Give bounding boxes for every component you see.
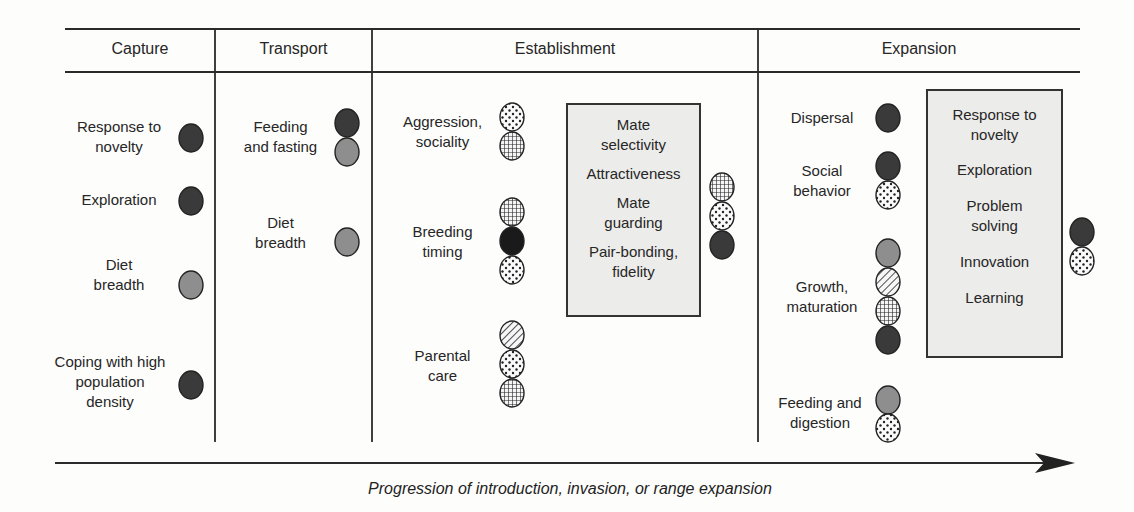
dot-dark (876, 326, 900, 354)
dot-crosshatch (500, 379, 524, 407)
box-item-attractiveness: Attractiveness (568, 164, 699, 184)
label-diet-breadth-transport: Diet breadth (228, 213, 333, 253)
column-header-transport: Transport (215, 40, 372, 58)
dot-dotted (500, 350, 524, 378)
dot-dark (1070, 218, 1094, 246)
column-header-capture: Capture (65, 40, 215, 58)
box-item-innovation: Innovation (928, 252, 1061, 272)
dot-dotted (500, 103, 524, 131)
axis-caption: Progression of introduction, invasion, o… (0, 480, 1134, 498)
label-aggression-sociality: Aggression, sociality (385, 112, 500, 152)
dot-gray (335, 138, 359, 166)
dot-crosshatch (710, 173, 734, 201)
label-breeding-timing: Breeding timing (385, 222, 500, 262)
dot-dotted (500, 256, 524, 284)
box-item-learning: Learning (928, 288, 1061, 308)
dot-black (500, 227, 524, 255)
dot-gray (335, 228, 359, 256)
progression-arrow (55, 453, 1075, 473)
label-feeding-and-fasting: Feeding and fasting (228, 117, 333, 157)
dot-dotted (876, 181, 900, 209)
dot-dark (876, 104, 900, 132)
label-dispersal: Dispersal (770, 108, 874, 128)
column-header-expansion: Expansion (758, 40, 1080, 58)
label-feeding-and-digestion: Feeding and digestion (762, 393, 878, 433)
dot-dark (876, 152, 900, 180)
box-item-exploration: Exploration (928, 160, 1061, 180)
box-item-mate-guarding: Mate guarding (568, 193, 699, 233)
dot-gray (876, 386, 900, 414)
dot-hatched (876, 268, 900, 296)
dot-hatched (500, 321, 524, 349)
label-exploration: Exploration (60, 190, 178, 210)
dot-dark (179, 371, 203, 399)
dot-crosshatch (500, 132, 524, 160)
box-item-pair-bonding: Pair-bonding, fidelity (568, 242, 699, 282)
cognitive-behaviors-box: Response to novelty Exploration Problem … (926, 89, 1063, 358)
dot-dark (179, 124, 203, 152)
dot-gray (876, 239, 900, 267)
dot-dark (179, 187, 203, 215)
box-item-mate-selectivity: Mate selectivity (568, 115, 699, 155)
mating-behaviors-box: Mate selectivity Attractiveness Mate gua… (566, 103, 701, 317)
label-coping-with-density: Coping with high population density (40, 352, 180, 412)
dot-crosshatch (876, 297, 900, 325)
column-header-establishment: Establishment (372, 40, 758, 58)
label-diet-breadth: Diet breadth (60, 255, 178, 295)
box-item-response-to-novelty: Response to novelty (928, 105, 1061, 145)
dot-crosshatch (500, 198, 524, 226)
dot-dotted (1070, 247, 1094, 275)
dot-dark (710, 231, 734, 259)
box-item-problem-solving: Problem solving (928, 196, 1061, 236)
dot-dark (335, 109, 359, 137)
label-social-behavior: Social behavior (770, 161, 874, 201)
label-growth-maturation: Growth, maturation (766, 277, 878, 317)
label-parental-care: Parental care (385, 346, 500, 386)
dot-gray (179, 271, 203, 299)
dot-dotted (876, 414, 900, 442)
label-response-to-novelty: Response to novelty (60, 117, 178, 157)
dot-dotted (710, 202, 734, 230)
